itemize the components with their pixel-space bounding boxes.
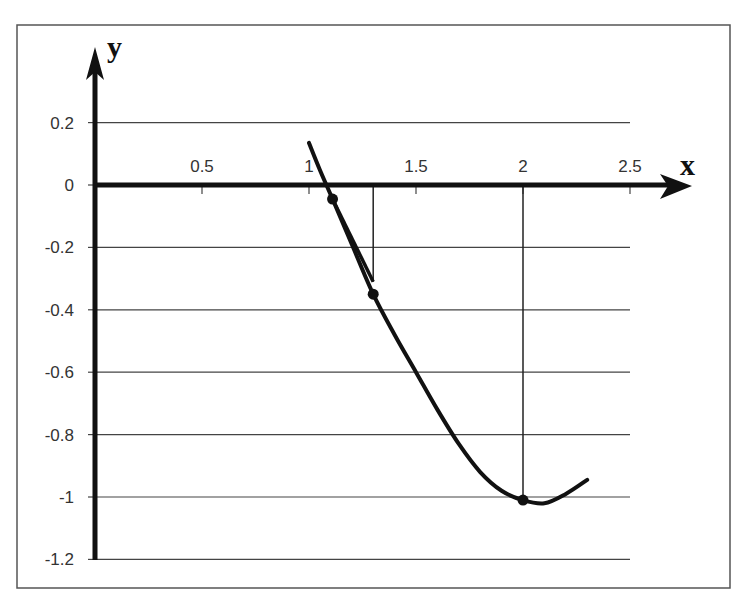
marked-point [518, 495, 529, 506]
marked-point [327, 194, 338, 205]
x-tick-label: 2 [518, 157, 527, 176]
y-tick-label: -0.6 [45, 363, 74, 382]
y-tick-label: 0.2 [50, 114, 74, 133]
x-tick-label: 1.5 [404, 157, 428, 176]
y-tick-label: -0.2 [45, 238, 74, 257]
x-tick-label: 1 [304, 157, 313, 176]
y-tick-label: 0 [65, 176, 74, 195]
y-tick-label: -1.2 [45, 550, 74, 569]
x-tick-label: 2.5 [618, 157, 642, 176]
y-axis-label: y [107, 30, 122, 63]
marked-point [368, 289, 379, 300]
y-tick-label: -0.4 [45, 301, 74, 320]
x-tick-label: 0.5 [190, 157, 214, 176]
chart: 0.20-0.2-0.4-0.6-0.8-1-1.2 0.511.522.5 x… [0, 0, 744, 599]
x-axis-label: x [680, 148, 695, 181]
y-tick-label: -0.8 [45, 426, 74, 445]
y-tick-label: -1 [59, 488, 74, 507]
chart-frame [17, 25, 730, 588]
